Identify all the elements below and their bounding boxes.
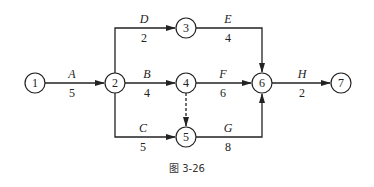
activity-duration-C: 5: [128, 141, 158, 153]
node-label-2: 2: [105, 77, 125, 89]
figure-caption: 图 3-26: [0, 160, 374, 175]
node-label-3: 3: [176, 22, 196, 34]
activity-name-G: G: [213, 122, 243, 134]
node-label-4: 4: [176, 77, 196, 89]
activity-name-H: H: [287, 68, 317, 80]
activity-duration-D: 2: [129, 32, 159, 44]
activity-duration-G: 8: [213, 141, 243, 153]
activity-name-F: F: [208, 68, 238, 80]
activity-duration-B: 4: [132, 87, 162, 99]
node-label-5: 5: [176, 131, 196, 143]
node-label-6: 6: [252, 77, 272, 89]
activity-duration-A: 5: [57, 87, 87, 99]
node-label-7: 7: [331, 77, 351, 89]
network-diagram: 1 2 3 4 5 6 7 A 5 D 2 B 4 C 5 E 4 F 6 G …: [0, 0, 374, 187]
activity-duration-H: 2: [287, 87, 317, 99]
activity-duration-E: 4: [213, 32, 243, 44]
activity-duration-F: 6: [208, 87, 238, 99]
activity-name-B: B: [132, 68, 162, 80]
activity-name-D: D: [129, 13, 159, 25]
activity-name-E: E: [213, 13, 243, 25]
activity-name-C: C: [128, 122, 158, 134]
activity-name-A: A: [57, 68, 87, 80]
node-label-1: 1: [25, 77, 45, 89]
